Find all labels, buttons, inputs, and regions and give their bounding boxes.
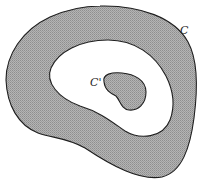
label-c-prime: C' [90, 76, 101, 89]
region-diagram: C C' [0, 0, 202, 181]
label-c: C [180, 24, 189, 37]
